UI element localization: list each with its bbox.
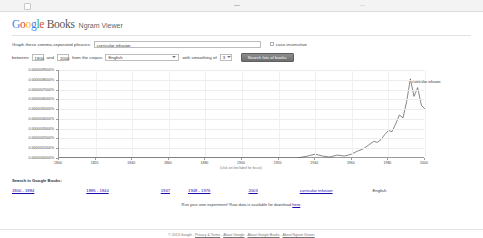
search-language-label: English — [373, 188, 387, 193]
x-axis-tick-label: 1900 — [237, 161, 245, 165]
between-label: between — [12, 55, 29, 60]
masthead: Google Books Ngram Viewer — [12, 12, 471, 36]
search-link[interactable]: 1800 - 1884 — [12, 188, 34, 193]
browser-chrome — [0, 0, 483, 12]
vertical-gridline — [132, 70, 133, 157]
x-axis-tick-label: 1980 — [383, 161, 391, 165]
page-body: Google Books Ngram Viewer Graph these co… — [0, 12, 483, 207]
query-label: Graph these comma-separated phrases: — [12, 42, 91, 47]
search-in-books-section: Search in Google Books: 1800 - 18841885 … — [12, 178, 471, 193]
x-axis-tick-label: 2000 — [420, 161, 428, 165]
plot-area — [58, 70, 424, 158]
x-axis-tick-label: 1920 — [274, 161, 282, 165]
series-annotation[interactable]: curricular infusion — [412, 80, 440, 84]
page-icon — [24, 3, 31, 10]
and-label: and — [47, 55, 54, 60]
x-axis-tick — [424, 158, 425, 160]
x-axis-tick-label: 1940 — [310, 161, 318, 165]
y-axis-tick-label: 0.0000004000% — [29, 117, 55, 121]
x-axis-tick — [204, 158, 205, 160]
case-insensitive-toggle[interactable]: case-insensitive — [270, 42, 307, 47]
x-axis-tick — [58, 158, 59, 160]
x-axis-tick-label: 1800 — [54, 161, 62, 165]
y-axis-tick-label: 0.0000005000% — [29, 107, 55, 111]
search-links-row: 1800 - 18841885 - 194419471948 - 1976200… — [12, 188, 471, 193]
smoothing-label: with smoothing of — [182, 55, 216, 60]
run-experiment-text: Run your own experiment! Raw data is ava… — [182, 202, 293, 207]
vertical-gridline — [169, 70, 170, 157]
y-axis-tick-label: 0.0000001000% — [29, 146, 55, 150]
x-axis-tick — [95, 158, 96, 160]
run-experiment-line: Run your own experiment! Raw data is ava… — [12, 202, 471, 207]
y-axis: 0.0000000000%0.0000001000%0.0000002000%0… — [12, 68, 56, 160]
vertical-gridline — [205, 70, 206, 157]
x-axis-tick — [168, 158, 169, 160]
search-link[interactable]: 1947 — [161, 188, 170, 193]
x-axis-tick — [241, 158, 242, 160]
vertical-gridline — [242, 70, 243, 157]
x-axis-tick — [278, 158, 279, 160]
case-insensitive-label: case-insensitive — [276, 42, 307, 47]
x-axis-tick-label: 1860 — [164, 161, 172, 165]
x-axis-tick — [314, 158, 315, 160]
checkbox-icon[interactable] — [270, 42, 274, 46]
chrome-control-icon — [360, 5, 365, 6]
ngram-chart: 0.0000000000%0.0000001000%0.0000002000%0… — [12, 68, 471, 168]
x-axis-tick-label: 1820 — [91, 161, 99, 165]
y-axis-tick-label: 0.0000008000% — [29, 78, 55, 82]
google-books-logo[interactable]: Google Books — [12, 19, 75, 31]
year-end-input[interactable]: 2000 — [57, 54, 69, 61]
search-link[interactable]: 1885 - 1944 — [86, 188, 108, 193]
minimize-icon — [234, 5, 240, 6]
chevron-down-icon — [172, 56, 176, 58]
y-axis-tick-label: 0.0000009000% — [29, 68, 55, 72]
vertical-gridline — [315, 70, 316, 157]
x-axis-tick — [351, 158, 352, 160]
y-axis-tick-label: 0.0000007000% — [29, 88, 55, 92]
vertical-gridline — [388, 70, 389, 157]
corpus-value: English — [108, 54, 122, 61]
x-axis-tick-label: 1880 — [200, 161, 208, 165]
vertical-gridline — [352, 70, 353, 157]
x-axis-caption: (click on line/label for focus) — [58, 166, 424, 170]
vertical-gridline — [96, 70, 97, 157]
search-section-title: Search in Google Books: — [12, 178, 471, 183]
search-button[interactable]: Search lots of books — [241, 53, 294, 63]
y-axis-tick-label: 0.0000003000% — [29, 127, 55, 131]
page-title: Ngram Viewer — [79, 22, 123, 29]
search-link[interactable]: 2003 — [248, 188, 257, 193]
search-link[interactable]: curricular infusion — [300, 188, 333, 193]
x-axis-tick — [131, 158, 132, 160]
y-axis-tick-label: 0.0000006000% — [29, 97, 55, 101]
query-row: Graph these comma-separated phrases: cur… — [12, 41, 471, 48]
search-link[interactable]: 1948 - 1976 — [188, 188, 210, 193]
vertical-gridline — [279, 70, 280, 157]
x-axis-tick — [387, 158, 388, 160]
options-row: between 1800 and 2000 from the corpus En… — [12, 53, 471, 63]
chevron-down-icon — [227, 56, 231, 58]
year-start-input[interactable]: 1800 — [32, 54, 44, 61]
corpus-label: from the corpus — [72, 55, 103, 60]
corpus-select[interactable]: English — [105, 54, 179, 61]
run-experiment-suffix: . — [300, 202, 301, 207]
query-input[interactable]: curricular infusion — [94, 41, 261, 48]
smoothing-value: 3 — [223, 54, 225, 61]
y-axis-tick-label: 0.0000000000% — [29, 156, 55, 160]
x-axis-tick-label: 1960 — [347, 161, 355, 165]
y-axis-tick-label: 0.0000002000% — [29, 136, 55, 140]
x-axis-tick-label: 1840 — [127, 161, 135, 165]
smoothing-select[interactable]: 3 — [220, 54, 232, 61]
